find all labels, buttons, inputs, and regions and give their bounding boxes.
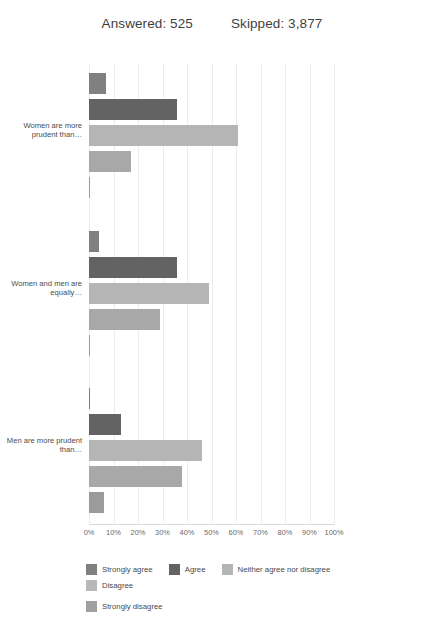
legend-swatch (86, 580, 97, 591)
chart-page: Answered: 525 Skipped: 3,877 Women are m… (0, 0, 424, 622)
bar-row (89, 125, 334, 146)
bar[interactable] (89, 309, 160, 330)
bar[interactable] (89, 99, 177, 120)
legend-label: Neither agree nor disagree (238, 565, 331, 574)
gridline (334, 63, 335, 525)
x-tick-label: 80% (278, 528, 293, 537)
bar-row (89, 99, 334, 120)
legend-label: Disagree (102, 581, 133, 590)
bar-row (89, 231, 334, 252)
bar[interactable] (89, 335, 90, 356)
legend-swatch (169, 564, 180, 575)
legend-label: Agree (185, 565, 206, 574)
category-label: Women and men are equally… (6, 279, 82, 298)
bar-group (89, 73, 334, 203)
bar-row (89, 283, 334, 304)
category-axis-labels: Women are more prudent than…Women and me… (0, 63, 86, 525)
x-tick-label: 100% (325, 528, 344, 537)
bar-group (89, 231, 334, 361)
x-tick-label: 40% (180, 528, 195, 537)
bar-chart (89, 63, 334, 525)
bar[interactable] (89, 440, 202, 461)
x-axis: 0%10%20%30%40%50%60%70%80%90%100% (89, 528, 334, 544)
bar[interactable] (89, 414, 121, 435)
bar-row (89, 177, 334, 198)
skipped-count: Skipped: 3,877 (231, 16, 322, 31)
legend-item[interactable]: Strongly agree (86, 564, 153, 575)
bar-row (89, 151, 334, 172)
bar[interactable] (89, 73, 106, 94)
bar[interactable] (89, 177, 90, 198)
answered-count: Answered: 525 (102, 16, 193, 31)
legend-label: Strongly agree (102, 565, 153, 574)
bar-groups (89, 63, 334, 525)
bar-row (89, 309, 334, 330)
legend-swatch (222, 564, 233, 575)
bar-row (89, 414, 334, 435)
bar[interactable] (89, 283, 209, 304)
x-tick-label: 0% (84, 528, 95, 537)
bar[interactable] (89, 466, 182, 487)
legend-item[interactable]: Agree (169, 564, 206, 575)
legend-swatch (86, 564, 97, 575)
bar-row (89, 466, 334, 487)
bar-row (89, 257, 334, 278)
bar-group (89, 388, 334, 518)
legend-item[interactable]: Disagree (86, 580, 133, 591)
x-tick-label: 70% (253, 528, 268, 537)
bar[interactable] (89, 257, 177, 278)
bar[interactable] (89, 231, 99, 252)
category-label: Men are more prudent than… (6, 436, 82, 455)
legend-item[interactable]: Strongly disagree (86, 601, 163, 612)
x-tick-label: 20% (131, 528, 146, 537)
bar-row (89, 440, 334, 461)
x-tick-label: 10% (106, 528, 121, 537)
bar-row (89, 492, 334, 513)
bar-row (89, 388, 334, 409)
bar[interactable] (89, 388, 90, 409)
legend-item[interactable]: Neither agree nor disagree (222, 564, 331, 575)
legend-label: Strongly disagree (102, 602, 163, 611)
x-tick-label: 30% (155, 528, 170, 537)
x-tick-label: 50% (204, 528, 219, 537)
bar[interactable] (89, 151, 131, 172)
bar-row (89, 335, 334, 356)
chart-legend: Strongly agreeAgreeNeither agree nor dis… (86, 564, 406, 612)
x-tick-label: 60% (229, 528, 244, 537)
chart-header: Answered: 525 Skipped: 3,877 (0, 16, 424, 31)
bar-row (89, 73, 334, 94)
bar[interactable] (89, 125, 238, 146)
bar[interactable] (89, 492, 104, 513)
x-tick-label: 90% (302, 528, 317, 537)
category-label: Women are more prudent than… (6, 121, 82, 140)
legend-swatch (86, 601, 97, 612)
